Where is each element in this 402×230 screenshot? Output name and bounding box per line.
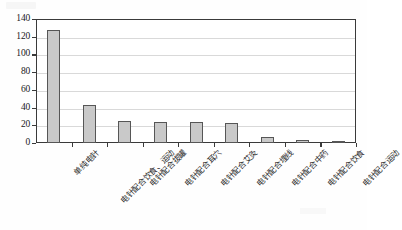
- x-axis-tick-mark: [285, 143, 286, 147]
- x-axis-tick-mark: [249, 143, 250, 147]
- x-axis-category-label: 单纯电针: [72, 148, 100, 176]
- x-axis-category-label: 电针配合埋线: [255, 148, 295, 188]
- y-axis-tick-label: 20: [2, 120, 30, 130]
- bar: [190, 122, 203, 143]
- x-axis-tick-mark: [72, 143, 73, 147]
- x-axis-category-label: 电针配合艾灸: [219, 148, 259, 188]
- x-axis-category-label: 电针配合饮食: [326, 148, 366, 188]
- y-axis-tick-label: 140: [2, 14, 30, 24]
- x-axis-tick-mark: [143, 143, 144, 147]
- bar: [261, 137, 274, 143]
- x-axis-tick-mark: [107, 143, 108, 147]
- bar: [154, 122, 167, 143]
- y-axis-tick-label: 0: [2, 138, 30, 148]
- bar: [296, 140, 309, 143]
- scan-artifact-bottom: [300, 208, 326, 214]
- x-axis-category-label: 电针配合拔罐: [148, 148, 188, 188]
- y-axis-tick-label: 100: [2, 49, 30, 59]
- x-axis-category-label: 电针配合运动: [361, 148, 401, 188]
- bar: [225, 123, 238, 143]
- bar: [47, 30, 60, 143]
- x-axis-tick-mark: [214, 143, 215, 147]
- y-axis-tick-label: 120: [2, 32, 30, 42]
- x-axis-tick-mark: [356, 143, 357, 147]
- y-axis-tick-label: 60: [2, 85, 30, 95]
- y-axis-tick-label: 80: [2, 67, 30, 77]
- bar: [118, 121, 131, 143]
- bars-layer: [36, 19, 356, 143]
- y-axis-tick-mark: [32, 143, 36, 144]
- y-axis-tick-label: 40: [2, 103, 30, 113]
- x-axis-tick-mark: [320, 143, 321, 147]
- x-axis-category-label: 电针配合耳穴: [183, 148, 223, 188]
- scan-artifact-top: [6, 2, 36, 9]
- bar: [83, 105, 96, 143]
- x-axis-tick-mark: [178, 143, 179, 147]
- x-axis-category-label: 电针配合中药: [290, 148, 330, 188]
- x-axis-category-label: 电针配合饮食、运动: [119, 148, 176, 205]
- bar: [332, 141, 345, 143]
